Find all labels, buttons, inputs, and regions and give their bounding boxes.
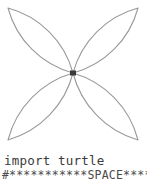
turtle-drawing-canvas — [0, 0, 147, 152]
code-text-area: import turtle #***********SPACE*********… — [0, 152, 147, 183]
code-line-space-comment: #***********SPACE*********** — [2, 169, 147, 182]
flower-drawing — [0, 0, 147, 152]
turtle-cursor-marker — [70, 71, 76, 76]
turtle-graphics-screenshot: import turtle #***********SPACE*********… — [0, 0, 147, 183]
code-line-import-turtle: import turtle — [4, 154, 104, 168]
